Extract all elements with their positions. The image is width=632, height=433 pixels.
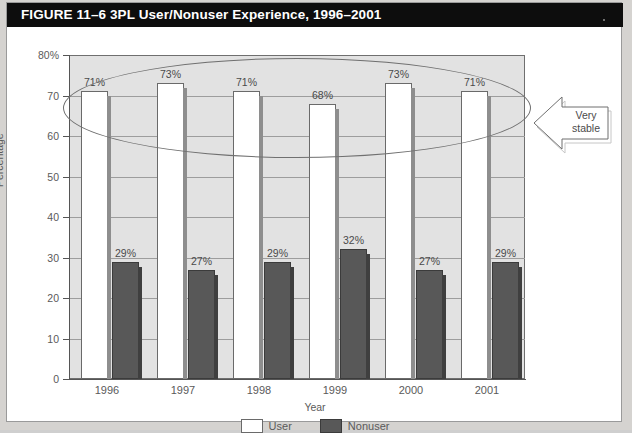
legend-label: User — [269, 420, 292, 432]
legend-label: Nonuser — [348, 420, 390, 432]
x-axis-label-2000: 2000 — [376, 384, 446, 396]
bar-shadow — [259, 96, 263, 379]
x-axis-label-1999: 1999 — [300, 384, 370, 396]
grid-line — [69, 177, 525, 178]
bar-shadow — [183, 88, 187, 379]
x-axis-label-1997: 1997 — [148, 384, 218, 396]
data-label-nonuser-2000: 27% — [402, 255, 458, 267]
callout-line-1: Very — [562, 109, 610, 122]
y-axis-tick-label: 80% — [38, 49, 59, 61]
data-label-nonuser-1999: 32% — [326, 234, 382, 246]
figure-card: FIGURE 11–6 3PL User/Nonuser Experience,… — [6, 2, 622, 422]
bar-shadow — [442, 275, 446, 379]
y-axis-tick — [63, 136, 69, 137]
bar-shadow — [411, 88, 415, 379]
chart-area: 01020304050607080% Percentage 71%29%73%2… — [7, 27, 623, 423]
bar-nonuser-1996 — [112, 262, 139, 379]
legend-item-user: User — [241, 419, 292, 433]
data-label-user-1999: 68% — [295, 89, 351, 101]
scan-speck — [603, 19, 605, 21]
y-axis-tick-label: 50 — [47, 171, 59, 183]
bar-nonuser-2000 — [416, 270, 443, 379]
y-axis-tick-label: 40 — [47, 211, 59, 223]
y-axis-tick-label: 70 — [47, 90, 59, 102]
y-axis-tick-label: 30 — [47, 252, 59, 264]
y-axis-tick-label: 20 — [47, 292, 59, 304]
bar-shadow — [107, 96, 111, 379]
bar-nonuser-1998 — [264, 262, 291, 379]
bar-nonuser-2001 — [492, 262, 519, 379]
chart-legend: UserNonuser — [7, 419, 623, 433]
grid-line — [69, 217, 525, 218]
y-axis-tick — [63, 217, 69, 218]
bar-shadow — [138, 267, 142, 379]
callout-annotation: Very stable — [528, 93, 612, 167]
data-label-nonuser-1998: 29% — [250, 247, 306, 259]
figure-title-bar: FIGURE 11–6 3PL User/Nonuser Experience,… — [7, 3, 623, 27]
bar-user-2001 — [461, 91, 488, 379]
y-axis-tick-label: 60 — [47, 130, 59, 142]
bar-shadow — [366, 254, 370, 379]
bar-shadow — [214, 275, 218, 379]
y-axis-title: Percentage — [0, 133, 5, 187]
x-axis-line — [69, 379, 526, 380]
bar-nonuser-1997 — [188, 270, 215, 379]
data-label-nonuser-2001: 29% — [478, 247, 534, 259]
y-axis-tick — [63, 258, 69, 259]
bar-user-1997 — [157, 83, 184, 379]
data-label-user-2001: 71% — [447, 76, 503, 88]
y-axis-tick — [63, 177, 69, 178]
y-axis-tick — [63, 298, 69, 299]
data-label-user-2000: 73% — [371, 68, 427, 80]
y-axis-tick — [63, 96, 69, 97]
grid-line — [69, 136, 525, 137]
x-axis-title: Year — [7, 401, 623, 413]
callout-text: Very stable — [562, 109, 610, 135]
data-label-nonuser-1996: 29% — [98, 247, 154, 259]
bar-shadow — [290, 267, 294, 379]
bar-shadow — [518, 267, 522, 379]
page-title: FIGURE 11–6 3PL User/Nonuser Experience,… — [21, 7, 381, 22]
y-axis-tick-label: 0 — [53, 373, 59, 385]
bar-shadow — [487, 96, 491, 379]
x-axis-label-1996: 1996 — [72, 384, 142, 396]
legend-item-nonuser: Nonuser — [320, 419, 390, 433]
x-axis-label-1998: 1998 — [224, 384, 294, 396]
legend-swatch-nonuser — [320, 419, 342, 433]
bar-user-1998 — [233, 91, 260, 379]
y-axis-tick — [63, 339, 69, 340]
y-axis-tick-label: 10 — [47, 333, 59, 345]
data-label-nonuser-1997: 27% — [174, 255, 230, 267]
y-axis-tick — [63, 55, 69, 56]
x-axis-label-2001: 2001 — [452, 384, 522, 396]
data-label-user-1996: 71% — [67, 76, 123, 88]
data-label-user-1997: 73% — [143, 68, 199, 80]
y-axis-tick — [63, 379, 69, 380]
callout-line-2: stable — [562, 122, 610, 135]
bar-user-2000 — [385, 83, 412, 379]
data-label-user-1998: 71% — [219, 76, 275, 88]
y-axis-line — [69, 55, 70, 380]
bar-user-1996 — [81, 91, 108, 379]
legend-swatch-user — [241, 419, 263, 433]
bar-nonuser-1999 — [340, 249, 367, 379]
